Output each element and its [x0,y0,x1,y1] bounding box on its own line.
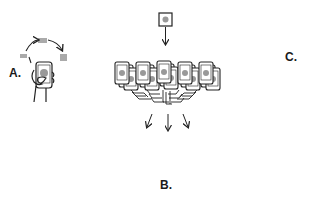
phone-in-hand [20,38,67,102]
label-a: A. [9,66,21,80]
fleet-to-updates-arrows [147,114,188,130]
federated-learning-diagram [0,0,322,199]
label-c: C. [285,50,297,64]
label-b: B. [160,178,172,192]
top-model [159,13,172,44]
device-fleet [115,61,220,104]
